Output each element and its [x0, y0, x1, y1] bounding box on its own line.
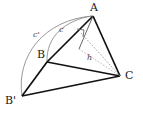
side-label-h: h	[87, 54, 92, 62]
segment-altitude-h	[79, 16, 93, 49]
side-label-c: c	[59, 26, 63, 34]
geometry-figure: A B B' C c' c h	[0, 0, 143, 115]
vertex-label-B: B	[37, 49, 45, 60]
vertex-label-C: C	[125, 70, 133, 81]
segment-Bprime-C	[22, 76, 120, 96]
side-label-c-prime: c'	[33, 31, 40, 39]
vertex-label-B-prime: B'	[5, 95, 16, 106]
vertex-label-A: A	[90, 2, 98, 13]
figure-canvas	[0, 0, 143, 115]
